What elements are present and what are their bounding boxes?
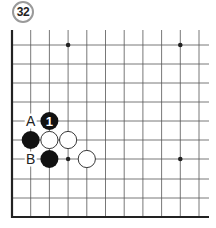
white-stone-icon [60, 131, 77, 148]
white-stone [41, 131, 58, 148]
star-point-icon [178, 157, 183, 162]
black-stone: 1 [40, 112, 58, 130]
black-stone [40, 150, 58, 168]
white-stone-icon [41, 131, 58, 148]
black-stone [22, 131, 40, 149]
white-stone [60, 131, 77, 148]
white-stone-icon [78, 150, 95, 167]
star-point-icon [178, 43, 183, 48]
point-letter-b: B [26, 151, 35, 167]
small-dot-mark-icon [66, 157, 70, 161]
go-board-diagram: 1 AB [0, 0, 216, 228]
move-number-label: 1 [46, 114, 53, 129]
black-stone-icon [22, 131, 40, 149]
board-marks [66, 157, 70, 161]
board-grid [11, 30, 209, 218]
point-letter-a: A [26, 113, 36, 129]
black-stone-icon [40, 150, 58, 168]
star-point-icon [66, 43, 71, 48]
white-stone [78, 150, 95, 167]
